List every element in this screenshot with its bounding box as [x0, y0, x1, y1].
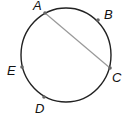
label-d: D: [35, 101, 44, 116]
label-b: B: [104, 7, 113, 22]
label-e: E: [7, 63, 16, 78]
points: [20, 11, 112, 99]
circle-diagram: A B C E D: [0, 0, 126, 120]
point-d: [42, 95, 46, 99]
point-a: [43, 11, 47, 15]
chord-ac: [45, 13, 110, 68]
circle: [21, 8, 111, 102]
point-e: [20, 65, 24, 69]
label-a: A: [32, 0, 42, 13]
label-c: C: [112, 70, 122, 85]
point-b: [96, 18, 100, 22]
